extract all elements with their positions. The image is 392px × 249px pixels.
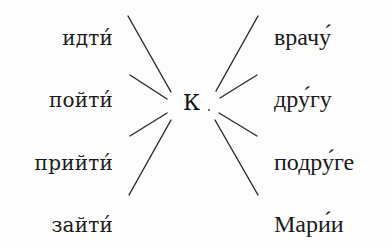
verb-priiti: прийти́ (35, 152, 113, 174)
connector-line-verb-3 (130, 113, 167, 136)
destination-podruge: подру́ге (274, 151, 354, 173)
destination-drugu: дру́гу (274, 88, 332, 110)
verb-poiti: пойти́ (49, 89, 113, 111)
connector-line-verb-4 (129, 120, 171, 195)
connector-line-dest-2 (220, 75, 257, 98)
destination-vrachu: врачу́ (274, 26, 331, 48)
verb-preposition-diagram: идти́ пойти́ прийти́ зайти́ К врачу́ дру… (0, 0, 392, 249)
connector-line-dest-3 (219, 113, 257, 136)
preposition-k: К (183, 92, 200, 114)
connector-line-dest-4 (215, 120, 258, 195)
destination-marii: Мари́и (274, 213, 344, 235)
verb-zaiti: зайти́ (51, 214, 113, 236)
connector-line-verb-1 (128, 16, 171, 92)
verb-idti: идти́ (62, 27, 113, 49)
center-dot (208, 109, 210, 111)
connector-line-dest-1 (216, 16, 258, 91)
connector-line-verb-2 (130, 75, 167, 99)
